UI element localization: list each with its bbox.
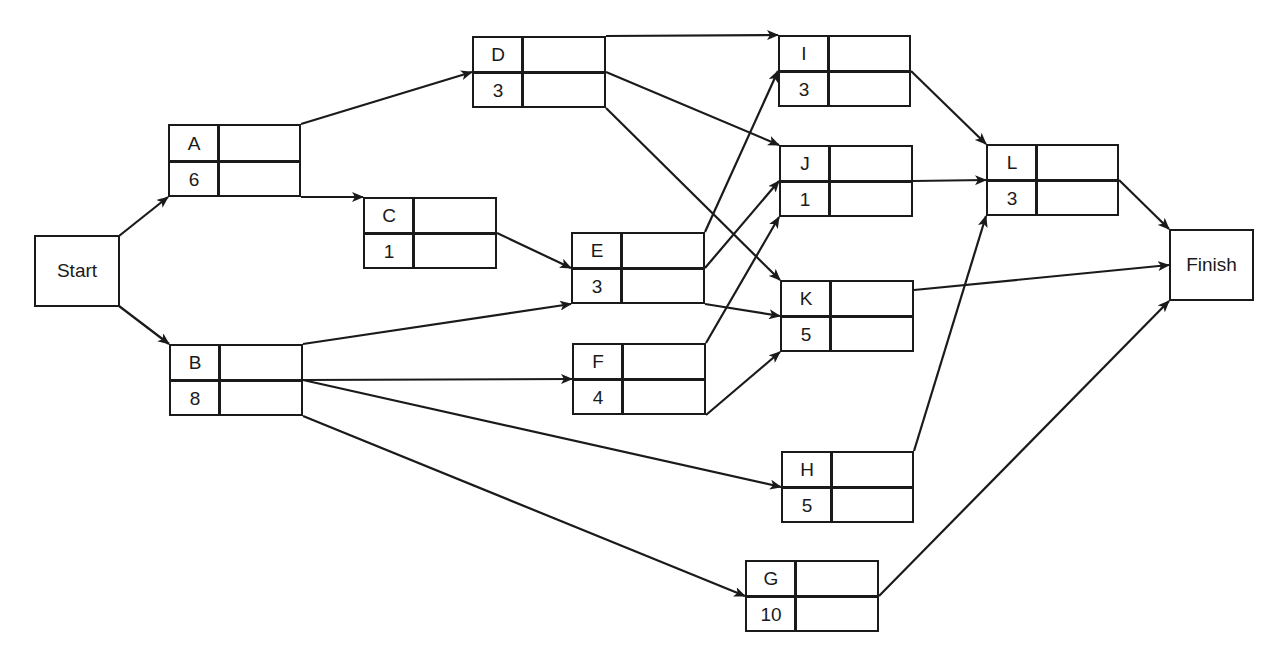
activity-id: D [474, 38, 522, 72]
late-times-cell [222, 383, 301, 414]
row-divider [747, 595, 877, 598]
early-times-cell [798, 562, 877, 596]
row-divider [988, 179, 1117, 182]
column-divider [828, 147, 831, 215]
late-times-cell [831, 74, 909, 105]
column-divider [830, 453, 833, 521]
row-divider [781, 180, 911, 183]
late-times-cell [832, 184, 911, 215]
arrow-a-to-d [301, 72, 472, 124]
activity-node-g: G10 [745, 560, 879, 632]
arrow-b-to-g [303, 416, 745, 596]
activity-node-f: F4 [572, 343, 706, 415]
arrow-start-to-b [119, 306, 169, 344]
activity-id: L [988, 146, 1036, 180]
arrow-f-to-k [706, 352, 780, 415]
late-times-cell [625, 382, 704, 413]
activity-id: E [573, 234, 621, 268]
activity-node-a: A6 [168, 124, 301, 197]
early-times-cell [624, 234, 703, 268]
activity-id: B [171, 346, 219, 380]
activity-node-h: H5 [781, 451, 914, 523]
arrow-d-to-i [606, 35, 778, 36]
activity-duration: 3 [474, 75, 522, 106]
finish-node: Finish [1169, 229, 1254, 301]
column-divider [218, 346, 221, 414]
arrow-d-to-j [606, 72, 779, 145]
activity-node-d: D3 [472, 36, 606, 108]
column-divider [217, 126, 220, 195]
row-divider [780, 70, 909, 73]
row-divider [474, 71, 604, 74]
activity-duration: 3 [780, 74, 828, 105]
late-times-cell [624, 271, 703, 302]
row-divider [171, 379, 301, 382]
early-times-cell [833, 282, 912, 316]
late-times-cell [834, 490, 912, 521]
early-times-cell [416, 199, 495, 233]
start-label: Start [57, 260, 97, 282]
row-divider [574, 378, 704, 381]
early-times-cell [222, 346, 301, 380]
activity-duration: 10 [747, 599, 795, 630]
row-divider [783, 486, 912, 489]
start-node: Start [34, 235, 120, 307]
late-times-cell [798, 599, 877, 630]
activity-duration: 5 [782, 319, 830, 350]
activity-duration: 6 [170, 164, 218, 195]
activity-node-k: K5 [780, 280, 914, 352]
activity-id: G [747, 562, 795, 596]
activity-id: F [574, 345, 622, 379]
activity-id: H [783, 453, 831, 487]
column-divider [620, 234, 623, 302]
activity-node-c: C1 [363, 197, 497, 269]
activity-duration: 1 [781, 184, 829, 215]
arrow-c-to-e [497, 233, 571, 268]
arrow-e-to-i [705, 71, 778, 232]
arrow-f-to-j [706, 217, 779, 343]
activity-node-e: E3 [571, 232, 705, 304]
activity-id: K [782, 282, 830, 316]
activity-node-i: I3 [778, 35, 911, 107]
early-times-cell [221, 126, 299, 161]
activity-node-b: B8 [169, 344, 303, 416]
activity-duration: 8 [171, 383, 219, 414]
late-times-cell [1039, 183, 1117, 214]
early-times-cell [1039, 146, 1117, 180]
activity-id: C [365, 199, 413, 233]
row-divider [170, 160, 299, 163]
activity-id: I [780, 37, 828, 71]
finish-label: Finish [1186, 254, 1237, 276]
arrow-j-to-l [913, 180, 986, 181]
early-times-cell [832, 147, 911, 181]
arrow-b-to-f [303, 379, 572, 380]
arrow-g-to-finish [879, 301, 1169, 596]
arrow-k-to-finish [914, 265, 1169, 290]
late-times-cell [416, 236, 495, 267]
early-times-cell [831, 37, 909, 71]
dependency-arrows [0, 0, 1281, 664]
row-divider [782, 315, 912, 318]
column-divider [1035, 146, 1038, 214]
late-times-cell [525, 75, 604, 106]
column-divider [829, 282, 832, 350]
row-divider [573, 267, 703, 270]
arrow-e-to-j [705, 181, 779, 268]
activity-duration: 4 [574, 382, 622, 413]
column-divider [794, 562, 797, 630]
arrow-i-to-l [911, 71, 986, 144]
column-divider [521, 38, 524, 106]
column-divider [621, 345, 624, 413]
activity-duration: 1 [365, 236, 413, 267]
column-divider [412, 199, 415, 267]
arrow-start-to-a [119, 197, 168, 236]
arrow-l-to-finish [1119, 180, 1169, 229]
activity-id: J [781, 147, 829, 181]
network-diagram: Start Finish A6B8C1D3E3F4G10H5I3J1K5L3 [0, 0, 1281, 664]
column-divider [827, 37, 830, 105]
late-times-cell [833, 319, 912, 350]
arrow-b-to-h [303, 380, 781, 487]
activity-duration: 3 [573, 271, 621, 302]
row-divider [365, 232, 495, 235]
early-times-cell [834, 453, 912, 487]
